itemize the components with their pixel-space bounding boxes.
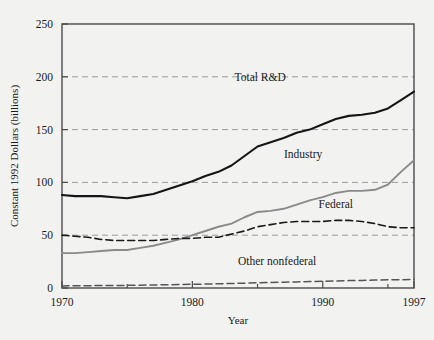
series-label: Federal [319, 198, 353, 210]
chart-figure: 1970198019901997 050100150200250 Total R… [0, 0, 434, 340]
y-tick-label: 200 [36, 71, 54, 83]
y-tick-label: 0 [47, 282, 53, 294]
axis-titles: YearConstant 1992 Dollars (billions) [8, 85, 248, 326]
series-label: Industry [284, 148, 323, 161]
y-tick-label: 50 [42, 229, 54, 241]
plot-frame [62, 24, 414, 288]
x-tick-label: 1970 [51, 296, 74, 308]
series-label: Other nonfederal [238, 255, 316, 267]
series-line [62, 220, 414, 240]
x-tick-label: 1990 [311, 296, 334, 308]
x-tick-label: 1980 [181, 296, 204, 308]
series-line [62, 160, 414, 253]
y-axis-title: Constant 1992 Dollars (billions) [8, 85, 21, 227]
series-line [62, 279, 414, 285]
grid-lines [62, 77, 414, 235]
series-label: Total R&D [235, 71, 286, 83]
x-tick-label: 1997 [403, 296, 426, 308]
y-tick-label: 100 [36, 176, 54, 188]
y-tick-label: 150 [36, 124, 54, 136]
series-annotations: Total R&DIndustryFederalOther nonfederal [235, 71, 353, 267]
y-tick-label: 250 [36, 18, 54, 30]
x-axis-title: Year [228, 314, 249, 326]
line-chart: 1970198019901997 050100150200250 Total R… [0, 0, 434, 340]
plot-border [62, 24, 414, 288]
